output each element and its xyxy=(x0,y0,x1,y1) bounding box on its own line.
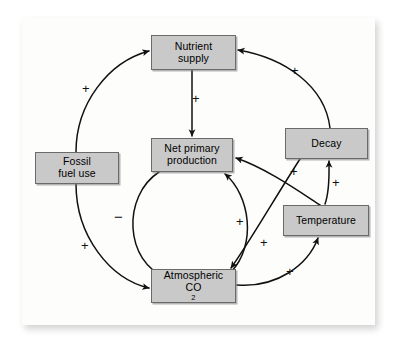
sign-co2-to-temperature: + xyxy=(286,265,294,278)
node-atmospheric-co2[interactable]: Atmospheric CO2 xyxy=(151,269,236,303)
edge-fossil-to-nutrient xyxy=(76,51,149,152)
sign-fossil-to-co2: + xyxy=(81,239,89,252)
node-fossil-fuel-use[interactable]: Fossil fuel use xyxy=(35,152,119,184)
node-net-primary-production-line2: production xyxy=(164,155,219,167)
sign-co2-to-npp: + xyxy=(236,215,244,228)
node-temperature[interactable]: Temperature xyxy=(283,205,369,236)
node-fossil-fuel-use-line2: fuel use xyxy=(58,168,96,180)
sign-temperature-to-decay: + xyxy=(332,176,340,189)
node-atmospheric-co2-subscript: 2 xyxy=(164,294,223,302)
sign-decay-to-nutrient: + xyxy=(291,64,299,77)
sign-fossil-to-nutrient: + xyxy=(82,82,90,95)
edge-decay-to-nutrient xyxy=(238,50,330,128)
figure-root: Nutrient supply Net primary production A… xyxy=(0,0,397,339)
node-decay[interactable]: Decay xyxy=(285,128,368,159)
sign-npp-to-co2: − xyxy=(114,209,123,224)
edge-temperature-to-npp xyxy=(236,158,320,205)
node-net-primary-production[interactable]: Net primary production xyxy=(151,138,233,172)
edge-co2-to-temperature xyxy=(237,238,318,285)
sign-temperature-to-npp: + xyxy=(290,165,298,178)
node-atmospheric-co2-line2: CO2 xyxy=(164,282,223,302)
node-decay-line1: Decay xyxy=(311,138,341,150)
node-atmospheric-co2-formula: CO xyxy=(164,282,223,294)
sign-nutrient-to-npp: + xyxy=(192,92,200,105)
edge-npp-to-co2 xyxy=(133,172,167,278)
sign-decay-to-co2: + xyxy=(260,236,268,249)
node-nutrient-supply-line1: Nutrient xyxy=(175,41,213,53)
node-temperature-line1: Temperature xyxy=(296,215,356,227)
edge-temperature-to-decay xyxy=(325,161,329,204)
node-nutrient-supply-line2: supply xyxy=(175,53,213,65)
node-nutrient-supply[interactable]: Nutrient supply xyxy=(151,35,236,70)
